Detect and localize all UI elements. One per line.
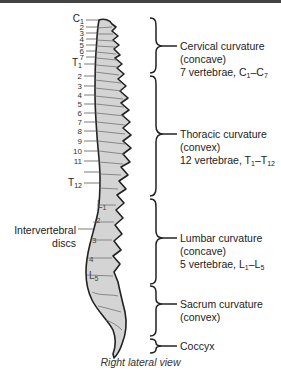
thoracic-count: 12 vertebrae, T1–T12: [180, 154, 275, 167]
label-l3: 3: [92, 236, 96, 245]
sacrum-curve: (convex): [180, 311, 263, 324]
figure-caption: Right lateral view: [0, 356, 281, 368]
cervical-count: 7 vertebrae, C1–C7: [180, 66, 268, 79]
spine-column: [86, 19, 131, 358]
label-l2: 2: [96, 216, 100, 225]
label-t4: 4: [68, 91, 82, 100]
region-brackets: [150, 18, 177, 353]
label-t11: 11: [68, 157, 82, 166]
label-t8: 8: [68, 127, 82, 136]
cervical-name: Cervical curvature: [180, 40, 268, 53]
sacrum-name: Sacrum curvature: [180, 298, 263, 311]
label-t10: 10: [68, 147, 82, 156]
thoracic-label: Thoracic curvature (convex) 12 vertebrae…: [180, 128, 275, 167]
label-t3: 3: [68, 82, 82, 91]
label-t5: 5: [68, 100, 82, 109]
label-l1: L1: [97, 199, 106, 210]
label-l5: L5: [89, 270, 98, 281]
lumbar-count: 5 vertebrae, L1–L5: [180, 258, 264, 271]
cervical-curve: (concave): [180, 53, 268, 66]
lumbar-curve: (concave): [180, 245, 264, 258]
thoracic-curve: (convex): [180, 141, 275, 154]
sacrum-label: Sacrum curvature (convex): [180, 298, 263, 324]
lumbar-name: Lumbar curvature: [180, 232, 264, 245]
intervertebral-label-line2: discs: [12, 237, 76, 250]
label-t2: 2: [68, 72, 82, 81]
label-t7: 7: [68, 118, 82, 127]
coccyx-label: Coccyx: [180, 340, 214, 353]
lumbar-label: Lumbar curvature (concave) 5 vertebrae, …: [180, 232, 264, 271]
label-t1: T1: [66, 57, 82, 68]
label-l4: 4: [89, 255, 93, 264]
label-t12: T12: [60, 177, 82, 188]
cervical-label: Cervical curvature (concave) 7 vertebrae…: [180, 40, 268, 79]
intervertebral-label-line1: Intervertebral: [12, 224, 76, 237]
thoracic-name: Thoracic curvature: [180, 128, 275, 141]
label-t9: 9: [68, 137, 82, 146]
label-t6: 6: [68, 109, 82, 118]
